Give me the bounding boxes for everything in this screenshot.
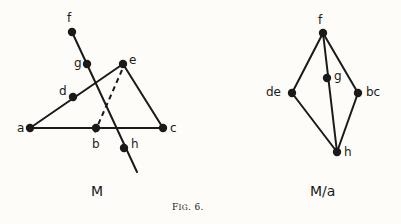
figure-vector-canvas <box>0 0 401 224</box>
caption-smallcaps: IG <box>179 203 189 212</box>
vertex-g[interactable] <box>323 74 331 82</box>
line-e-b-dashed <box>94 70 122 134</box>
vertex-d[interactable] <box>69 93 77 101</box>
vertex-label-f: f <box>67 12 71 24</box>
line-f-h <box>72 32 137 172</box>
vertex-label-c: c <box>170 122 177 134</box>
line-e-c <box>123 64 163 128</box>
vertex-label-b: b <box>92 138 100 150</box>
vertex-label-g: g <box>334 70 342 82</box>
diagram-title-matroid-m: M <box>91 184 103 198</box>
vertex-label-de: de <box>266 86 281 98</box>
vertex-g[interactable] <box>83 60 91 68</box>
vertex-c[interactable] <box>159 124 167 132</box>
vertex-label-f: f <box>318 14 322 26</box>
vertex-label-e: e <box>129 54 136 66</box>
vertex-label-d: d <box>59 85 67 97</box>
vertex-f[interactable] <box>319 29 327 37</box>
diagram-edges-group <box>30 32 358 172</box>
diagram-vertices-group <box>26 28 362 156</box>
vertex-label-a: a <box>17 122 24 134</box>
vertex-e[interactable] <box>119 60 127 68</box>
vertex-label-g: g <box>74 57 82 69</box>
caption-suffix: . 6. <box>188 202 204 212</box>
vertex-label-h: h <box>344 146 352 158</box>
diagram-title-matroid-m-contract-a: M/a <box>310 184 335 198</box>
line-f-de <box>292 33 323 93</box>
vertex-a[interactable] <box>26 124 34 132</box>
vertex-f[interactable] <box>68 28 76 36</box>
vertex-label-bc: bc <box>366 86 380 98</box>
vertex-b[interactable] <box>92 124 100 132</box>
vertex-h[interactable] <box>333 148 341 156</box>
line-bc-h <box>337 93 358 152</box>
vertex-bc[interactable] <box>354 89 362 97</box>
line-f-g-h <box>323 33 337 152</box>
figure-container: fgedabchMfgdebchM/a FIG. 6. <box>0 0 401 224</box>
figure-caption: FIG. 6. <box>172 203 204 212</box>
vertex-h[interactable] <box>120 144 128 152</box>
vertex-de[interactable] <box>288 89 296 97</box>
vertex-label-h: h <box>131 138 139 150</box>
